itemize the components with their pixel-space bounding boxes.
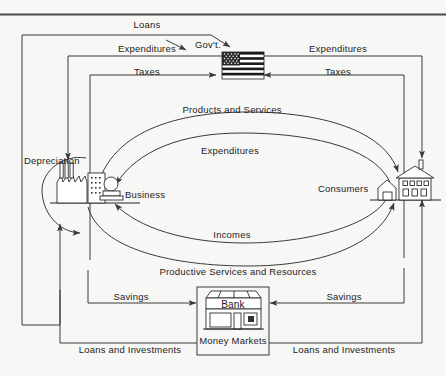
flow-label-expenditures-center: Expenditures — [201, 146, 259, 156]
flow-label-taxes-right: Taxes — [325, 67, 351, 77]
flow-loans-investments-left-path — [60, 224, 205, 343]
flow-label-expenditures-left: Expenditures — [118, 44, 176, 54]
flow-expenditures-center-path — [116, 133, 390, 184]
node-label-consumers: Consumers — [318, 184, 368, 194]
node-label-business: Business — [125, 190, 165, 200]
diagram-canvas — [0, 0, 446, 376]
flow-label-taxes-left: Taxes — [134, 67, 160, 77]
flow-loans-path — [22, 35, 230, 325]
flow-label-savings-left: Savings — [113, 292, 148, 302]
flow-label-incomes: Incomes — [213, 230, 250, 240]
flow-loans-feeder-path — [22, 290, 60, 325]
node-label-money-markets: Money Markets — [199, 336, 267, 346]
flow-label-savings-right: Savings — [326, 292, 361, 302]
flow-label-loans: Loans — [134, 20, 161, 30]
flow-label-depreciation: Depreciation — [24, 156, 80, 166]
bank-building-icon — [203, 291, 264, 329]
flow-taxes-left-path — [90, 75, 216, 260]
node-label-government: Gov't. — [195, 40, 221, 50]
flow-label-productive-services: Productive Services and Resources — [159, 267, 316, 277]
node-label-bank: Bank — [221, 300, 245, 310]
flow-label-expenditures-right: Expenditures — [309, 44, 367, 54]
circular-flow-diagram: Loans Expenditures Taxes Expenditures Ta… — [0, 0, 446, 376]
flow-incomes-path — [115, 196, 388, 243]
flow-label-loans-investments-left: Loans and Investments — [79, 345, 181, 355]
house-icon — [370, 160, 441, 200]
flow-label-loans-investments-right: Loans and Investments — [293, 345, 395, 355]
flow-label-products-services: Products and Services — [182, 105, 281, 115]
